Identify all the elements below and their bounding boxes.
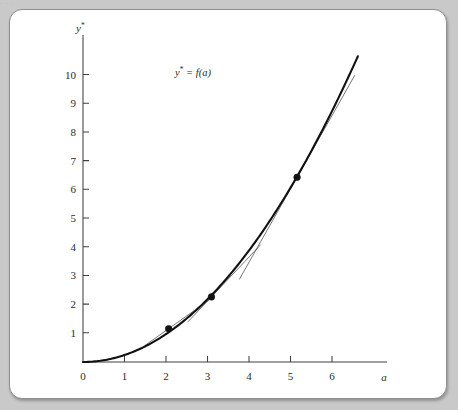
x-tick-label-5: 5 xyxy=(288,370,294,382)
axis-name-group: y* a xyxy=(75,21,387,383)
curve-label-rest: = f(a) xyxy=(183,67,211,79)
y-tick-label-2: 2 xyxy=(71,298,77,310)
x-tick-label-6: 6 xyxy=(329,370,335,382)
x-tick-group xyxy=(125,356,333,362)
point-a3[interactable] xyxy=(208,294,215,301)
y-tick-group xyxy=(83,75,89,333)
point-a5[interactable] xyxy=(294,174,301,181)
y-tick-label-10: 10 xyxy=(65,69,77,81)
y-tick-label-5: 5 xyxy=(71,212,77,224)
y-tick-label-9: 9 xyxy=(71,97,77,109)
y-tick-label-group: 10 9 8 7 6 5 4 3 2 1 xyxy=(65,69,77,339)
point-a2[interactable] xyxy=(165,325,172,332)
curve-label: y* = f(a) xyxy=(174,65,211,79)
page-bleed-text: · · · xyxy=(0,0,458,7)
x-tick-label-1: 1 xyxy=(122,370,128,382)
y-tick-label-4: 4 xyxy=(71,241,77,253)
x-tick-label-group: 0 1 2 3 4 5 6 xyxy=(80,370,335,382)
plot-canvas: 10 9 8 7 6 5 4 3 2 1 0 xyxy=(10,10,447,399)
data-point-group xyxy=(165,174,300,332)
figure-root: · · · xyxy=(0,0,458,410)
tangent-group xyxy=(145,75,355,345)
y-tick-label-3: 3 xyxy=(71,269,77,281)
x-tick-label-2: 2 xyxy=(163,370,169,382)
x-tick-label-0: 0 xyxy=(80,370,86,382)
y-tick-label-1: 1 xyxy=(71,327,77,339)
figure-card: 10 9 8 7 6 5 4 3 2 1 0 xyxy=(9,9,447,399)
y-tick-label-8: 8 xyxy=(71,126,77,138)
y-tick-label-7: 7 xyxy=(71,155,77,167)
axes-group xyxy=(83,35,387,363)
y-axis-label: y* xyxy=(75,21,85,34)
x-tick-label-3: 3 xyxy=(205,370,211,382)
tangent-at-a3 xyxy=(188,245,261,322)
function-curve xyxy=(83,56,358,362)
y-tick-label-6: 6 xyxy=(71,183,77,195)
x-tick-label-4: 4 xyxy=(246,370,252,382)
y-axis-label-star: * xyxy=(81,21,85,30)
x-axis-label: a xyxy=(381,371,387,383)
